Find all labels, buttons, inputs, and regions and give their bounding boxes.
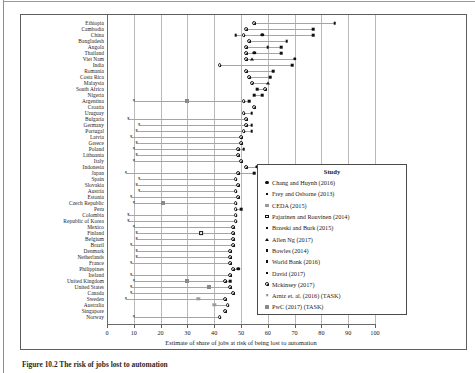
data-point-marker (240, 208, 243, 211)
data-point-marker (252, 105, 256, 109)
x-axis-tick-label: 30 (175, 329, 199, 336)
x-axis-tick-label: 90 (336, 329, 360, 336)
data-point-marker (253, 51, 256, 54)
legend-item[interactable]: Frey and Osborne (2013) (258, 188, 406, 199)
data-point-marker (248, 100, 251, 103)
data-point-marker (266, 82, 270, 85)
range-connector-line (246, 29, 313, 30)
small-square-icon (263, 224, 271, 232)
data-point-marker (239, 135, 243, 139)
x-axis-tick-label: 50 (229, 329, 253, 336)
x-axis-tick (375, 325, 376, 328)
legend-item[interactable]: Bowles (2014) (258, 245, 406, 256)
gridline (161, 15, 162, 325)
range-connector-line (236, 35, 314, 36)
data-point-marker (236, 195, 240, 199)
data-point-marker (239, 159, 243, 163)
data-point-marker (242, 99, 246, 103)
legend-item[interactable]: David (2017) (258, 267, 406, 278)
legend-item-label: David (2017) (272, 270, 305, 277)
xbox-icon (263, 303, 271, 311)
small-square-icon (263, 190, 271, 198)
legend-item[interactable]: World Bank (2016) (258, 256, 406, 267)
data-point-marker (129, 135, 133, 139)
legend-item[interactable]: Chang and Huynh (2016) (258, 177, 406, 188)
data-point-marker (132, 159, 136, 163)
legend-item-label: Mckinsey (2017) (272, 281, 314, 288)
legend-item[interactable]: Allen Ng (2017) (258, 233, 406, 244)
range-connector-line (131, 293, 233, 294)
data-point-marker (242, 129, 246, 133)
legend-item[interactable]: Arntz et. al. (2016) (TASK) (258, 290, 406, 301)
grey-square-icon (263, 201, 271, 209)
legend-item[interactable]: PwC (2017) (TASK) (258, 301, 406, 312)
data-point-marker (256, 88, 259, 91)
x-axis-tick (295, 325, 296, 328)
data-point-marker (134, 141, 138, 145)
x-axis-tick (107, 325, 108, 328)
range-connector-line (136, 143, 241, 144)
data-point-marker (285, 40, 288, 43)
open-square-icon (263, 213, 271, 221)
data-point-marker (231, 267, 235, 271)
data-point-marker (291, 64, 294, 67)
data-point-marker (231, 291, 235, 295)
data-point-marker (132, 279, 136, 283)
data-point-marker (261, 94, 264, 97)
range-connector-line (136, 251, 230, 252)
data-point-marker (250, 130, 253, 133)
data-point-marker (244, 123, 248, 127)
data-point-marker (124, 297, 128, 301)
small-square-icon (263, 258, 271, 266)
range-connector-line (136, 239, 232, 240)
data-point-marker (267, 46, 270, 49)
range-connector-line (136, 131, 251, 132)
data-point-marker (223, 279, 227, 283)
range-connector-line (134, 203, 236, 204)
range-connector-line (128, 221, 235, 222)
triangle-icon (263, 235, 271, 243)
data-point-marker (252, 21, 256, 25)
data-point-marker (185, 279, 189, 283)
legend-item[interactable]: Pajarinen and Rouvinen (2014) (258, 211, 406, 222)
range-connector-line (126, 173, 255, 174)
y-axis-label: Norway (86, 314, 104, 321)
legend-item-label: Frey and Osborne (2013) (272, 190, 334, 197)
range-connector-line (134, 317, 220, 318)
data-point-marker (126, 219, 130, 223)
legend-item[interactable]: Brzeski and Burk (2015) (258, 222, 406, 233)
legend[interactable]: StudyChang and Huynh (2016)Frey and Osbo… (257, 164, 407, 315)
data-point-marker (207, 285, 211, 289)
data-point-marker (269, 76, 272, 79)
x-axis-tick (161, 325, 162, 328)
data-point-marker (242, 33, 246, 37)
range-connector-line (131, 287, 230, 288)
page-edge-left (3, 0, 4, 373)
plot-panel: EthiopiaCambodiaChinaBangladeshAngolaTha… (20, 14, 467, 350)
data-point-marker (244, 165, 248, 169)
x-axis-tick-label: 100 (363, 329, 387, 336)
data-point-marker (134, 183, 138, 187)
x-axis-tick-label: 0 (95, 329, 119, 336)
range-connector-line (134, 281, 230, 282)
range-connector-line (134, 149, 244, 150)
data-point-marker (250, 81, 254, 85)
legend-item-label: Bowles (2014) (272, 247, 309, 254)
data-point-marker (280, 46, 283, 49)
data-point-marker (244, 27, 248, 31)
data-point-marker (129, 261, 133, 265)
data-point-marker (231, 225, 235, 229)
data-point-marker (134, 129, 138, 133)
x-icon (263, 292, 271, 300)
legend-item[interactable]: Mckinsey (2017) (258, 279, 406, 290)
data-point-marker (244, 45, 248, 49)
data-point-marker (250, 124, 253, 127)
data-point-marker (261, 33, 264, 36)
data-point-marker (137, 189, 141, 193)
page-edge-top (3, 1, 475, 2)
legend-item[interactable]: CEDA (2015) (258, 200, 406, 211)
data-point-marker (228, 273, 232, 277)
data-point-marker (229, 280, 232, 283)
data-point-marker (250, 58, 254, 61)
x-axis-tick (134, 325, 135, 328)
